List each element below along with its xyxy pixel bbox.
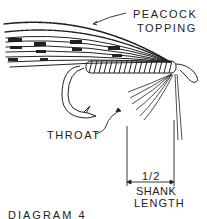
label-shank: SHANK [136,186,176,197]
label-topping: TOPPING [137,23,197,34]
pointer-peacock [93,13,126,25]
label-length: LENGTH [134,198,185,209]
label-peacock: PEACOCK [133,9,197,20]
label-throat: THROAT [47,130,100,141]
body-wrap [86,61,198,82]
label-fraction: 1/2 [142,171,160,182]
diagram-title: DIAGRAM 4 [8,210,87,219]
hook [62,66,96,118]
